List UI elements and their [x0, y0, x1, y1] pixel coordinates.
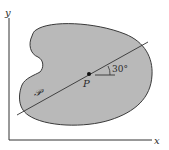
point-p-label: P [82, 78, 90, 89]
lamina-diagram: y x P 30° 𝒫 [0, 0, 169, 150]
angle-label: 30° [112, 64, 128, 74]
y-axis-label: y [4, 7, 11, 18]
region-shape [20, 24, 153, 126]
x-axis-label: x [154, 135, 160, 146]
point-p-dot [87, 72, 91, 76]
